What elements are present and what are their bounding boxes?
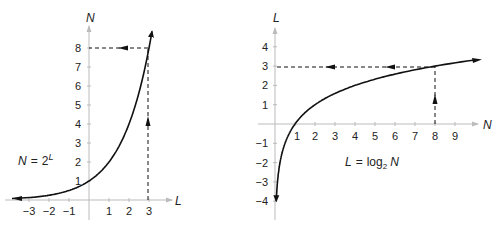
- y-tick-label: 4: [262, 41, 268, 53]
- x-tick-label: −2: [43, 205, 56, 217]
- figure: N L −3−2−1123 12345678 N=2L L N 12345678…: [0, 0, 500, 230]
- y-axis-label: N: [86, 11, 95, 25]
- y-tick-label: 5: [75, 99, 81, 111]
- x-axis-label: L: [175, 194, 182, 208]
- x-tick-label: 1: [106, 205, 112, 217]
- x-tick-label: 9: [452, 130, 458, 142]
- x-tick-label: 1: [294, 130, 300, 142]
- x-tick-label: 7: [412, 130, 418, 142]
- x-tick-label: 8: [432, 130, 438, 142]
- x-tick-label: 6: [392, 130, 398, 142]
- x-ticks: −3−2−1123: [23, 198, 152, 217]
- y-tick-label: −1: [255, 137, 268, 149]
- up-arrow-icon: [433, 94, 438, 104]
- y-tick-label: −3: [255, 176, 268, 188]
- y-axis-label: L: [273, 11, 280, 25]
- y-tick-label: 7: [75, 61, 81, 73]
- left-arrow-icon: [118, 46, 128, 51]
- y-tick-label: −2: [255, 157, 268, 169]
- y-tick-label: 1: [262, 99, 268, 111]
- y-tick-label: 3: [75, 137, 81, 149]
- x-tick-label: 2: [312, 130, 318, 142]
- left-arrow-icon: [385, 65, 395, 70]
- right-arrow-icon: [472, 58, 482, 63]
- x-tick-label: 2: [126, 205, 132, 217]
- y-tick-label: 2: [262, 79, 268, 91]
- x-tick-label: 5: [372, 130, 378, 142]
- equation-label: N=2L: [18, 152, 53, 168]
- exponential-curve: [12, 31, 152, 198]
- x-ticks: 123456789: [294, 122, 458, 142]
- equation-label: L=log2N: [345, 155, 399, 171]
- y-tick-label: 3: [262, 60, 268, 72]
- up-arrow-icon: [146, 116, 151, 126]
- x-tick-label: 3: [146, 205, 152, 217]
- y-tick-label: −4: [255, 195, 268, 207]
- y-tick-label: 8: [75, 42, 81, 54]
- x-tick-label: 3: [332, 130, 338, 142]
- x-axis-label: N: [483, 118, 492, 132]
- x-tick-label: 4: [352, 130, 358, 142]
- x-tick-label: −1: [63, 205, 76, 217]
- exponential-chart: N L −3−2−1123 12345678 N=2L: [5, 11, 182, 220]
- y-tick-label: 2: [75, 156, 81, 168]
- x-tick-label: −3: [23, 205, 36, 217]
- y-tick-label: 4: [75, 118, 81, 130]
- logarithm-chart: L N 123456789 4321−1−2−3−4 L=log2N: [255, 11, 492, 220]
- left-arrow-icon: [325, 65, 335, 70]
- y-tick-label: 6: [75, 80, 81, 92]
